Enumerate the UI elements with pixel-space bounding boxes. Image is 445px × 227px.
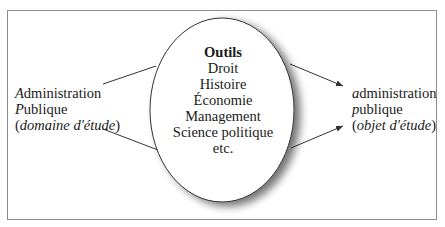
arrow-top-right <box>290 64 343 86</box>
initial-p: P <box>15 101 24 117</box>
tool-item: Management <box>150 108 296 124</box>
word-rest: dministration <box>24 85 101 101</box>
paren-close: ) <box>115 117 120 133</box>
domain-caption: domaine d'étude <box>20 117 115 133</box>
tools-list: Outils Droit Histoire Économie Managemen… <box>150 44 296 156</box>
tool-item: etc. <box>150 140 296 156</box>
tools-title: Outils <box>150 44 296 60</box>
initial-a: A <box>15 85 24 101</box>
word-rest: ublique <box>24 101 68 117</box>
tool-item: Économie <box>150 92 296 108</box>
left-label-domain: Administration Publique (domaine d'étude… <box>15 85 120 133</box>
arrow-bottom-right <box>291 126 343 148</box>
tool-item: Droit <box>150 60 296 76</box>
right-label-object: administration publique (objet d'étude) <box>352 85 437 133</box>
tool-item: Histoire <box>150 76 296 92</box>
object-caption: objet d'étude <box>357 117 431 133</box>
word-rest: ublique <box>359 101 403 117</box>
tool-item: Science politique <box>150 124 296 140</box>
paren-close: ) <box>431 117 436 133</box>
connector-line-top-left <box>103 66 156 84</box>
word-rest: dministration <box>359 85 436 101</box>
